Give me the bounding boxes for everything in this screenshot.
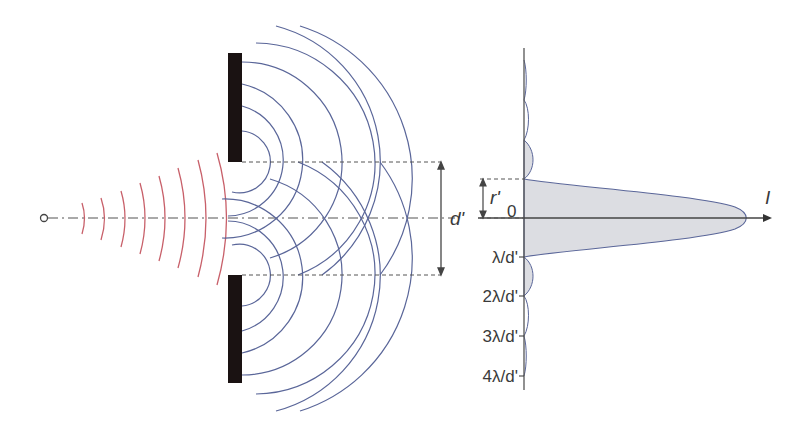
point-source-icon	[41, 215, 48, 222]
barrier-top	[228, 53, 242, 162]
fringe-width-label: r'	[490, 187, 501, 208]
barrier-bottom	[228, 275, 242, 383]
diffracted-wavefronts-bottom	[222, 162, 412, 411]
fringe-width-arrow	[480, 179, 486, 218]
incident-wavefronts	[82, 153, 227, 285]
intensity-axis-label: I	[765, 187, 771, 208]
slit-separation-label: d'	[450, 208, 466, 229]
intensity-axis-arrow-icon	[763, 214, 772, 222]
diffracted-wavefronts-top	[222, 26, 412, 275]
tick-label-4: 4λ/d'	[483, 367, 518, 386]
tick-label-3: 3λ/d'	[483, 327, 518, 346]
origin-label: 0	[507, 202, 516, 221]
tick-label-1: λ/d'	[492, 248, 518, 267]
tick-label-2: 2λ/d'	[483, 287, 518, 306]
double-slit-diagram: d' I r' 0 λ/d' 2λ/d' 3λ/d' 4λ/d'	[0, 0, 804, 424]
